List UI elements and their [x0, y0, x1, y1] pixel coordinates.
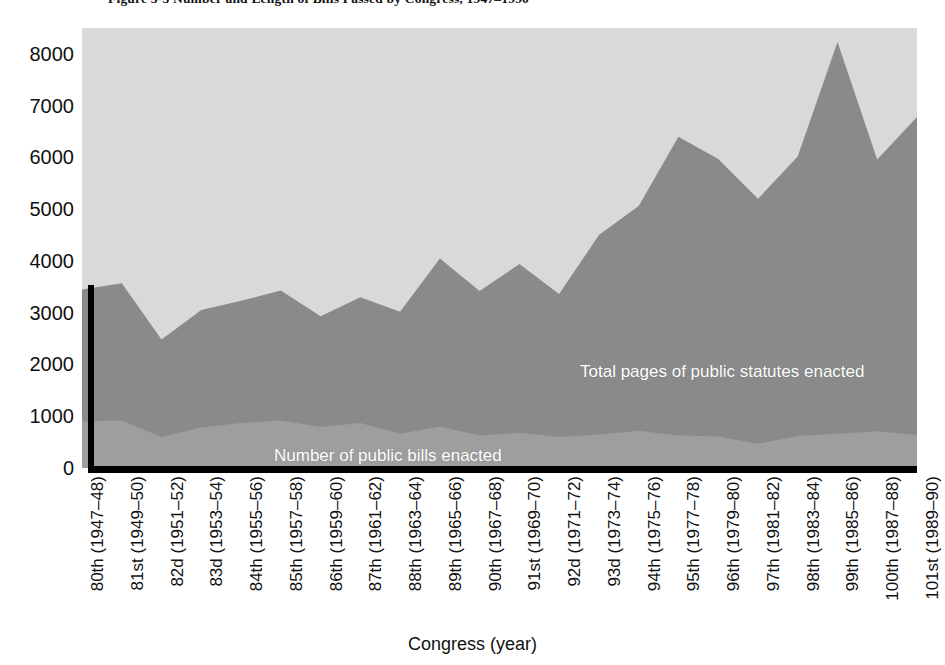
series-label-total-pages: Total pages of public statutes enacted	[580, 362, 864, 382]
x-axis-category-label: 99th (1985–86)	[844, 476, 861, 591]
x-axis-category-label: 85th (1957–58)	[288, 476, 305, 591]
figure-root: Figure 3-3 Number and Length of Bills Pa…	[0, 0, 945, 665]
x-axis-category-labels: 80th (1947–48)81st (1949–50)82d (1951–52…	[82, 476, 917, 626]
x-axis-category-label: 84th (1955–56)	[248, 476, 265, 591]
y-axis-labels: 010002000300040005000600070008000	[0, 28, 74, 468]
y-axis-tick-label: 7000	[30, 94, 75, 117]
y-axis-tick-label: 0	[63, 457, 74, 480]
x-axis-category-label: 95th (1977–78)	[685, 476, 702, 591]
x-axis-category-label: 88th (1963–64)	[407, 476, 424, 591]
x-axis-category-label: 97th (1981–82)	[765, 476, 782, 591]
x-axis-category-label: 82d (1951–52)	[169, 476, 186, 587]
x-axis-category-label: 94th (1975–76)	[646, 476, 663, 591]
x-axis-category-label: 101st (1989–90)	[924, 476, 941, 600]
plot-area: Total pages of public statutes enacted N…	[82, 28, 917, 468]
series-label-public-bills: Number of public bills enacted	[274, 446, 502, 466]
area-series-total-pages	[82, 42, 917, 468]
y-axis-tick-label: 3000	[30, 301, 75, 324]
x-axis-category-label: 87th (1961–62)	[367, 476, 384, 591]
figure-caption: Figure 3-3 Number and Length of Bills Pa…	[108, 0, 828, 7]
x-axis-category-label: 91st (1969–70)	[526, 476, 543, 590]
y-axis-tick-label: 8000	[30, 42, 75, 65]
x-axis-category-label: 96th (1979–80)	[725, 476, 742, 591]
x-axis-category-label: 80th (1947–48)	[89, 476, 106, 591]
y-axis-tick-label: 6000	[30, 146, 75, 169]
x-axis-category-label: 81st (1949–50)	[129, 476, 146, 590]
x-axis-line	[88, 466, 917, 473]
x-axis-category-label: 92d (1971–72)	[566, 476, 583, 587]
area-chart-svg	[82, 28, 917, 468]
x-axis-category-label: 98th (1983–84)	[805, 476, 822, 591]
y-axis-line	[88, 285, 94, 472]
x-axis-category-label: 93d (1973–74)	[606, 476, 623, 587]
x-axis-title: Congress (year)	[0, 634, 945, 655]
y-axis-tick-label: 2000	[30, 353, 75, 376]
x-axis-category-label: 83d (1953–54)	[208, 476, 225, 587]
y-axis-tick-label: 5000	[30, 198, 75, 221]
x-axis-category-label: 86th (1959–60)	[328, 476, 345, 591]
x-axis-category-label: 89th (1965–66)	[447, 476, 464, 591]
x-axis-category-label: 90th (1967–68)	[487, 476, 504, 591]
x-axis-category-label: 100th (1987–88)	[884, 476, 901, 601]
y-axis-tick-label: 1000	[30, 405, 75, 428]
y-axis-tick-label: 4000	[30, 249, 75, 272]
